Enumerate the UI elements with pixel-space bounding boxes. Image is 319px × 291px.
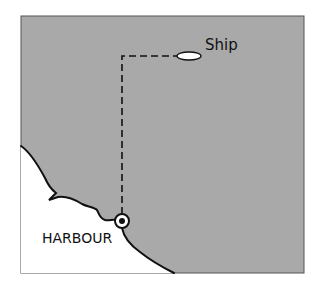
harbour-label: HARBOUR: [42, 230, 112, 246]
harbour-marker-dot: [119, 218, 125, 224]
harbour-ship-map: Ship HARBOUR: [0, 0, 319, 291]
ship-icon: [177, 52, 201, 60]
ship-label: Ship: [205, 36, 238, 54]
